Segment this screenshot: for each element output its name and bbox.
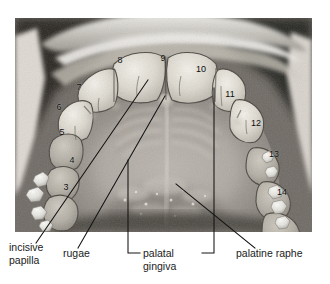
photograph-image (15, 18, 312, 232)
label-palatal-gingiva: palatalgingiva (143, 247, 176, 272)
tooth-number-9: 9 (160, 53, 165, 63)
tooth-number-5: 5 (59, 127, 64, 137)
tooth-number-12: 12 (251, 118, 261, 128)
label-incisive-papilla: incisivepapilla (9, 241, 44, 266)
tooth-number-10: 10 (196, 64, 206, 74)
tooth-number-4: 4 (69, 155, 74, 165)
intraoral-photograph (15, 18, 312, 232)
tooth-number-7: 7 (76, 82, 81, 92)
tooth-number-6: 6 (56, 102, 61, 112)
tooth-number-8: 8 (117, 55, 122, 65)
anatomy-figure: 3 4 5 6 7 8 9 10 11 12 13 14 incisivepap… (0, 0, 330, 284)
label-palatine-raphe: palatine raphe (236, 247, 303, 259)
tooth-number-13: 13 (269, 149, 279, 159)
tooth-number-14: 14 (277, 187, 287, 197)
tooth-number-3: 3 (63, 182, 68, 192)
tooth-number-11: 11 (225, 89, 234, 99)
label-rugae: rugae (63, 247, 90, 259)
